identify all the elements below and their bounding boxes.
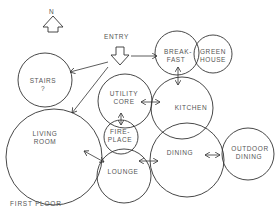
entry-label: ENTRY (104, 33, 129, 40)
lounge-circle (97, 149, 151, 203)
entry-to-stairs-arrow (70, 62, 108, 72)
outdoor-dining-label: OUTDOOR (231, 145, 268, 152)
greenhouse-label: GREEN (200, 48, 226, 55)
stairs-label: STAIRS (30, 77, 57, 84)
breakfast-label-2: FAST (167, 56, 186, 63)
entry-to-living-arrow (72, 67, 108, 113)
living-room-label-2: ROOM (34, 138, 57, 145)
fireplace-label-2: PLACE (108, 136, 132, 143)
greenhouse-label-2: HOUSE (200, 56, 226, 63)
dining-label: DINING (167, 149, 193, 156)
fireplace-label: FIRE- (110, 128, 130, 135)
north-label: N (49, 8, 54, 15)
stairs-label-2: ? (41, 85, 45, 92)
utility-core-label-2: CORE (113, 98, 134, 105)
north-arrow-icon: N (43, 8, 63, 32)
dining-circle (150, 123, 224, 197)
kitchen-label: KITCHEN (175, 104, 208, 111)
living-room-circle (6, 109, 102, 205)
entry-arrow-icon (111, 47, 129, 65)
lounge-label: LOUNGE (107, 168, 138, 175)
breakfast-label: BREAK- (164, 48, 192, 55)
living-lounge-arrow (84, 151, 104, 162)
floor-title: FIRST FLOOR (10, 200, 62, 207)
living-room-label: LIVING (33, 130, 58, 137)
outdoor-dining-label-2: DINING (236, 153, 262, 160)
utility-core-label: UTILITY (110, 90, 138, 97)
